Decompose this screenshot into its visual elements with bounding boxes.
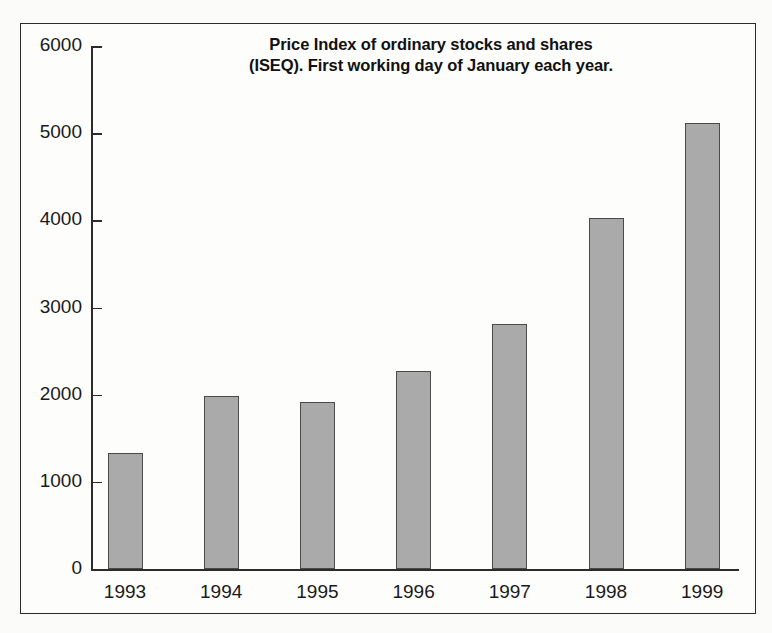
bar <box>204 396 239 569</box>
y-axis-tick-label: 3000 <box>40 296 82 318</box>
y-axis-tick-mark <box>91 46 102 48</box>
x-axis-tick-label: 1999 <box>662 580 742 604</box>
y-axis-tick-label: 1000 <box>40 470 82 492</box>
y-axis-tick-label: 2000 <box>40 383 82 405</box>
bar <box>492 324 527 569</box>
x-axis-tick-label: 1998 <box>566 580 646 604</box>
y-axis-tick-mark <box>91 308 102 310</box>
x-axis-tick-label: 1994 <box>181 580 261 604</box>
y-axis-tick-label: 5000 <box>40 121 82 143</box>
y-axis-tick-mark <box>91 482 102 484</box>
plot-area: 6000500040003000200010000 19931994199519… <box>91 46 739 569</box>
y-axis-tick-mark <box>91 395 102 397</box>
y-axis-tick-mark <box>91 220 102 222</box>
x-axis-tick-label: 1995 <box>277 580 357 604</box>
y-axis-tick-label: 6000 <box>40 34 82 56</box>
bar <box>685 123 720 569</box>
x-axis-tick-label: 1997 <box>470 580 550 604</box>
y-axis-tick-label: 0 <box>71 557 82 579</box>
x-axis-tick-label: 1993 <box>85 580 165 604</box>
bar <box>589 218 624 569</box>
x-axis-tick-label: 1996 <box>374 580 454 604</box>
y-axis-tick-mark <box>91 133 102 135</box>
bar <box>300 402 335 569</box>
y-axis-tick-mark <box>91 569 102 571</box>
bar <box>108 453 143 569</box>
bar <box>396 371 431 569</box>
y-axis-tick-label: 4000 <box>40 208 82 230</box>
figure-container: Price Index of ordinary stocks and share… <box>0 0 772 633</box>
x-axis-line <box>91 569 739 571</box>
chart-frame: Price Index of ordinary stocks and share… <box>20 23 756 614</box>
